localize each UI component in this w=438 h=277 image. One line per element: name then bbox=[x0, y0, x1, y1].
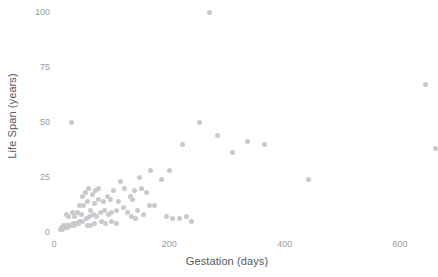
scatter-point bbox=[170, 216, 175, 221]
scatter-point bbox=[62, 225, 67, 230]
scatter-point bbox=[77, 219, 82, 224]
scatter-point bbox=[59, 225, 64, 230]
scatter-point bbox=[122, 186, 127, 191]
scatter-point bbox=[164, 214, 169, 219]
scatter-point bbox=[130, 197, 135, 202]
scatter-point bbox=[72, 223, 77, 228]
scatter-point bbox=[61, 225, 66, 230]
scatter-point bbox=[180, 142, 185, 147]
scatter-point bbox=[94, 214, 99, 219]
scatter-point bbox=[125, 210, 130, 215]
scatter-point bbox=[167, 168, 172, 173]
scatter-point bbox=[135, 208, 140, 213]
scatter-point bbox=[141, 212, 146, 217]
scatter-point bbox=[245, 139, 250, 144]
y-tick-label: 100 bbox=[20, 8, 50, 17]
scatter-point bbox=[86, 186, 91, 191]
scatter-point bbox=[102, 208, 107, 213]
scatter-point bbox=[85, 223, 90, 228]
scatter-point bbox=[121, 205, 126, 210]
scatter-point bbox=[207, 10, 212, 15]
scatter-point bbox=[159, 177, 164, 182]
scatter-point bbox=[96, 197, 101, 202]
scatter-point bbox=[77, 203, 82, 208]
scatter-point bbox=[132, 188, 137, 193]
scatter-point bbox=[144, 190, 149, 195]
scatter-point bbox=[85, 199, 90, 204]
scatter-point bbox=[177, 216, 182, 221]
scatter-point bbox=[64, 212, 69, 217]
scatter-point bbox=[137, 175, 142, 180]
scatter-point bbox=[69, 223, 74, 228]
scatter-point bbox=[61, 223, 66, 228]
scatter-point bbox=[96, 186, 101, 191]
scatter-point bbox=[98, 210, 103, 215]
scatter-point bbox=[58, 227, 63, 232]
scatter-point bbox=[197, 120, 202, 125]
scatter-point bbox=[80, 219, 85, 224]
scatter-point bbox=[63, 225, 68, 230]
scatter-point bbox=[148, 168, 153, 173]
scatter-point bbox=[60, 225, 65, 230]
scatter-point bbox=[91, 212, 96, 217]
scatter-point bbox=[93, 188, 98, 193]
x-tick-label: 600 bbox=[380, 240, 420, 249]
y-tick-label: 25 bbox=[20, 173, 50, 182]
scatter-point bbox=[64, 223, 69, 228]
scatter-point bbox=[105, 194, 110, 199]
scatter-point bbox=[88, 223, 93, 228]
scatter-point bbox=[87, 214, 92, 219]
scatter-point bbox=[83, 190, 88, 195]
scatter-point bbox=[128, 194, 133, 199]
scatter-point bbox=[68, 223, 73, 228]
scatter-point bbox=[152, 203, 157, 208]
scatter-point bbox=[133, 216, 138, 221]
scatter-point bbox=[88, 208, 93, 213]
x-tick-label: 400 bbox=[265, 240, 305, 249]
scatter-point bbox=[65, 225, 70, 230]
scatter-point bbox=[108, 197, 113, 202]
scatter-point bbox=[139, 186, 144, 191]
scatter-point bbox=[80, 194, 85, 199]
scatter-point bbox=[103, 221, 108, 226]
scatter-point bbox=[114, 208, 119, 213]
x-axis-title-text: Gestation (days) bbox=[186, 255, 268, 267]
scatter-point bbox=[230, 150, 235, 155]
scatter-point bbox=[109, 210, 114, 215]
scatter-point bbox=[76, 221, 81, 226]
scatter-point bbox=[92, 221, 97, 226]
scatter-point bbox=[66, 223, 71, 228]
scatter-point bbox=[92, 201, 97, 206]
scatter-point bbox=[106, 212, 111, 217]
scatter-point bbox=[184, 214, 189, 219]
scatter-point bbox=[114, 221, 119, 226]
scatter-point bbox=[75, 210, 80, 215]
scatter-point bbox=[129, 214, 134, 219]
scatter-point bbox=[79, 212, 84, 217]
scatter-point bbox=[73, 221, 78, 226]
scatter-point bbox=[147, 203, 152, 208]
x-tick-label: 200 bbox=[149, 240, 189, 249]
y-tick-label: 0 bbox=[20, 228, 50, 237]
scatter-point bbox=[118, 179, 123, 184]
scatter-point bbox=[111, 188, 116, 193]
scatter-point bbox=[262, 142, 267, 147]
scatter-point bbox=[433, 146, 438, 151]
y-tick-label: 50 bbox=[20, 118, 50, 127]
scatter-point bbox=[69, 120, 74, 125]
scatter-point bbox=[215, 133, 220, 138]
scatter-point bbox=[101, 199, 106, 204]
x-axis-tick-labels: 0200400600 bbox=[0, 240, 433, 254]
scatter-point bbox=[84, 216, 89, 221]
scatter-point bbox=[81, 203, 86, 208]
scatter-point bbox=[99, 219, 104, 224]
scatter-point bbox=[60, 227, 65, 232]
scatter-point bbox=[306, 177, 311, 182]
scatter-point bbox=[71, 221, 76, 226]
x-axis-title: Gestation (days) bbox=[54, 255, 400, 267]
scatter-point bbox=[116, 199, 121, 204]
x-tick-label: 0 bbox=[34, 240, 74, 249]
scatter-point bbox=[423, 82, 428, 87]
